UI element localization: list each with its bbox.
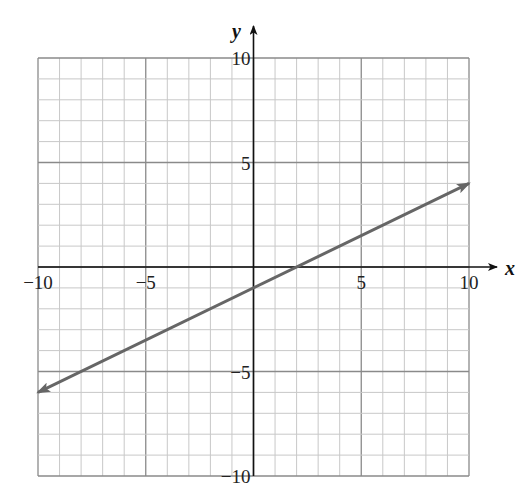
coordinate-plane: −10−5510105−5−10 x y bbox=[0, 0, 522, 504]
x-tick-label: 5 bbox=[357, 272, 367, 293]
y-tick-label: −5 bbox=[230, 362, 250, 383]
y-axis-label: y bbox=[230, 20, 241, 43]
y-tick-label: −10 bbox=[221, 466, 251, 487]
y-tick-label: 5 bbox=[241, 153, 251, 174]
axes bbox=[38, 26, 497, 476]
x-tick-label: −10 bbox=[23, 272, 53, 293]
y-tick-label: 10 bbox=[232, 48, 251, 69]
x-tick-label: −5 bbox=[136, 272, 156, 293]
x-tick-label: 10 bbox=[460, 272, 479, 293]
x-axis-label: x bbox=[504, 257, 515, 279]
